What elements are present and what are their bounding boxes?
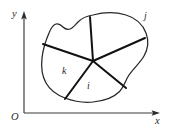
region-label-i: i: [87, 81, 90, 91]
region-label-k: k: [62, 66, 66, 76]
y-axis-label: y: [12, 9, 17, 20]
region-outline-group: [42, 13, 148, 103]
region-label-j: j: [144, 11, 147, 21]
origin-label: O: [11, 112, 19, 123]
x-axis-label: x: [155, 116, 160, 127]
region-outline: [42, 13, 148, 103]
geometry-figure: y O x j k i: [0, 0, 172, 131]
